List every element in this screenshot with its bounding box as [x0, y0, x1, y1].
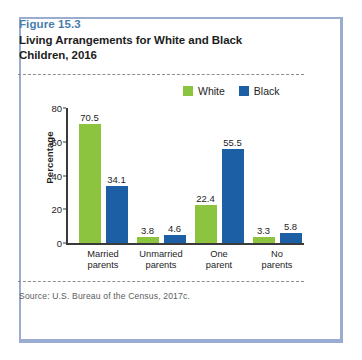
bar-chart: White Black Percentage 0 20 40 60 80 70.…: [15, 86, 307, 271]
bar-black-one-parent[interactable]: 55.5: [222, 149, 244, 243]
dashed-divider-bottom: [18, 281, 304, 282]
figure-header: Figure 15.3 Living Arrangements for Whit…: [19, 17, 269, 63]
bar-value-black-married-parents: 34.1: [107, 174, 126, 185]
plot-area: 0 20 40 60 80 70.5 34.1 Married parents: [66, 108, 304, 245]
y-axis-title: Percentage: [44, 118, 55, 198]
y-tick-mark-0: [63, 243, 66, 244]
x-category-line1-no: No: [271, 249, 283, 259]
bar-value-black-one-parent: 55.5: [223, 137, 242, 148]
x-category-line1-unmarried: Unmarried: [139, 249, 182, 259]
y-tick-mark-20: [63, 209, 66, 210]
legend-label-black: Black: [254, 86, 280, 96]
x-axis-line: [66, 243, 304, 245]
y-tick-mark-80: [63, 108, 66, 109]
bar-group-married-parents: 70.5 34.1 Married parents: [74, 108, 132, 243]
y-tick-label-80: 80: [51, 103, 62, 114]
x-category-line1-married: Married: [87, 249, 119, 259]
bar-value-white-no-parents: 3.3: [257, 225, 270, 236]
legend-swatch-black-icon: [239, 86, 249, 96]
bar-black-unmarried-parents[interactable]: 4.6: [164, 235, 186, 243]
legend-item-black: Black: [239, 86, 280, 96]
y-tick-label-0: 0: [57, 238, 62, 249]
bar-group-unmarried-parents: 3.8 4.6 Unmarried parents: [132, 108, 190, 243]
bar-white-married-parents[interactable]: 70.5: [79, 124, 101, 243]
y-tick-label-40: 40: [51, 170, 62, 181]
x-category-line2-no: parents: [261, 260, 292, 270]
y-tick-label-20: 20: [51, 204, 62, 215]
y-axis-line: [66, 108, 68, 245]
bar-value-white-one-parent: 22.4: [196, 193, 215, 204]
legend-swatch-white-icon: [183, 86, 193, 96]
x-category-line2-married: parents: [87, 260, 118, 270]
source-note: Source: U.S. Bureau of the Census, 2017c…: [19, 291, 190, 301]
x-category-line2-unmarried: parents: [145, 260, 176, 270]
bar-value-black-unmarried-parents: 4.6: [168, 223, 181, 234]
x-category-line1-one: One: [210, 249, 228, 259]
bar-value-black-no-parents: 5.8: [284, 221, 297, 232]
bar-group-no-parents: 3.3 5.8 No parents: [248, 108, 306, 243]
bar-value-white-unmarried-parents: 3.8: [141, 225, 154, 236]
bar-white-no-parents[interactable]: 3.3: [253, 237, 275, 243]
x-category-label-no-parents: No parents: [242, 249, 312, 271]
y-tick-label-60: 60: [51, 136, 62, 147]
legend-label-white: White: [198, 86, 225, 96]
figure-number: Figure 15.3: [19, 17, 269, 31]
bar-black-married-parents[interactable]: 34.1: [106, 186, 128, 244]
legend-item-white: White: [183, 86, 225, 96]
bar-white-unmarried-parents[interactable]: 3.8: [137, 237, 159, 243]
dashed-divider-top: [18, 74, 304, 75]
y-tick-mark-40: [63, 175, 66, 176]
bar-white-one-parent[interactable]: 22.4: [195, 205, 217, 243]
bar-black-no-parents[interactable]: 5.8: [280, 233, 302, 243]
bar-value-white-married-parents: 70.5: [80, 112, 99, 123]
y-tick-mark-60: [63, 141, 66, 142]
bar-group-one-parent: 22.4 55.5 One parent: [190, 108, 248, 243]
chart-legend: White Black: [183, 86, 280, 96]
x-category-line2-one: parent: [206, 260, 232, 270]
figure-title: Living Arrangements for White and Black …: [19, 33, 269, 63]
